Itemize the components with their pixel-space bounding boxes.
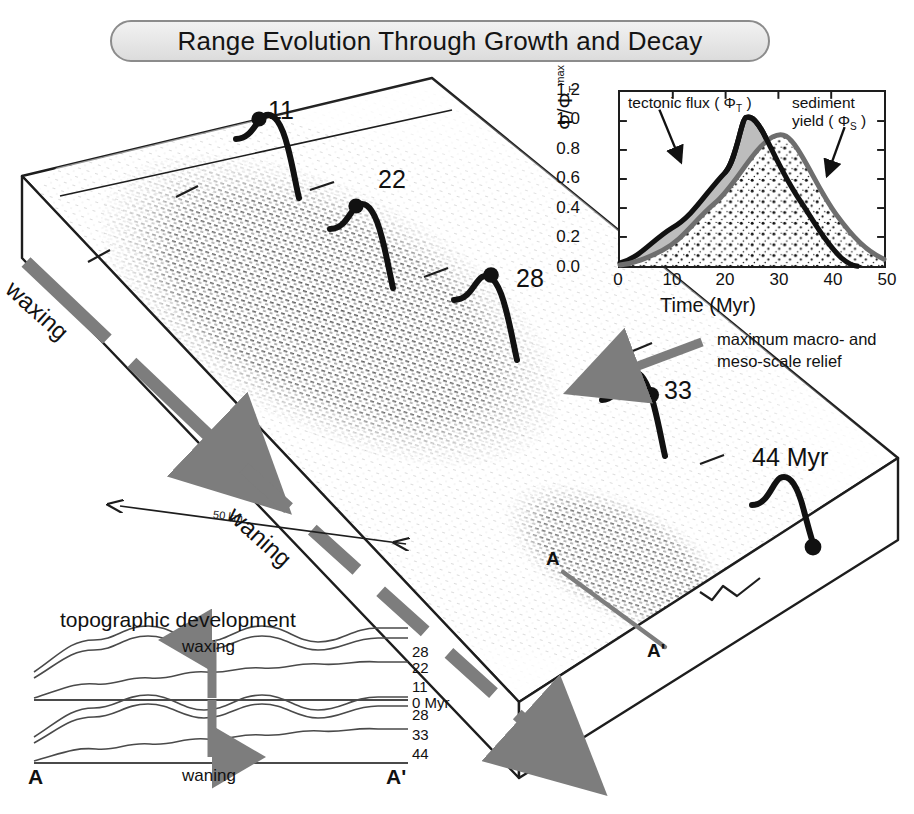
topo-tick-waning-33: 33 — [412, 727, 429, 744]
chart-plot-area: tectonic flux ( ΦT ) sediment yield ( ΦS… — [618, 90, 886, 268]
topo-endpoint-A-prime: A' — [386, 765, 406, 789]
topo-waning-label: waning — [182, 766, 236, 785]
y-tick-0-6: 0.6 — [540, 168, 580, 188]
y-tick-0-0: 0.0 — [540, 257, 580, 277]
x-tick-0: 0 — [601, 270, 635, 290]
x-tick-50: 50 — [870, 270, 904, 290]
topo-waxing-label: waxing — [182, 637, 235, 656]
y-tick-0-8: 0.8 — [540, 139, 580, 159]
figure-root: Range Evolution Through Growth and Decay — [0, 0, 914, 814]
x-tick-10: 10 — [655, 270, 689, 290]
flux-vs-time-chart: Φ/ΦTmax 1.2 1.0 0.8 0.6 0.4 0.2 0.0 — [560, 72, 914, 324]
topo-tick-waxing-22: 22 — [412, 660, 429, 677]
topo-tick-waning-44: 44 — [412, 746, 429, 763]
topo-endpoint-A: A — [28, 765, 43, 789]
x-tick-40: 40 — [816, 270, 850, 290]
y-tick-1-2: 1.2 — [540, 80, 580, 100]
x-tick-20: 20 — [708, 270, 742, 290]
tectonic-flux-label: tectonic flux ( ΦT ) — [628, 94, 752, 115]
waning-profile-panel — [34, 695, 408, 763]
sediment-yield-label: sediment yield ( ΦS ) — [792, 94, 866, 132]
x-tick-30: 30 — [762, 270, 796, 290]
topographic-development-title: topographic development — [60, 608, 296, 632]
y-tick-1-0: 1.0 — [540, 109, 580, 129]
topo-tick-waning-28: 28 — [412, 707, 429, 724]
chart-x-axis-label: Time (Myr) — [660, 294, 756, 317]
y-tick-0-2: 0.2 — [540, 227, 580, 247]
y-tick-0-4: 0.4 — [540, 198, 580, 218]
